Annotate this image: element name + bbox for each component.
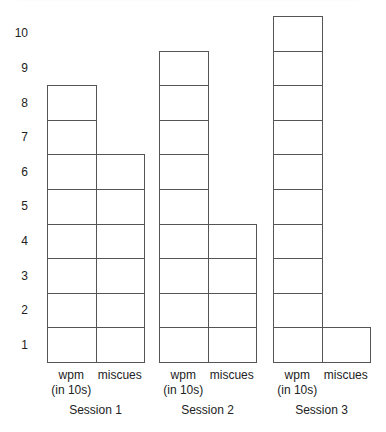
bar-block <box>208 327 258 363</box>
y-tick-label: 1 <box>0 338 28 352</box>
y-tick-label: 7 <box>0 130 28 144</box>
bar-block <box>96 258 146 294</box>
bar-block <box>96 154 146 190</box>
bar-block <box>159 327 209 363</box>
bar-block <box>47 293 97 329</box>
bar-block <box>273 189 323 225</box>
y-tick-label: 6 <box>0 165 28 179</box>
y-tick-label: 5 <box>0 199 28 213</box>
bar-block <box>96 293 146 329</box>
bar-block <box>47 154 97 190</box>
bar-block <box>96 224 146 260</box>
bar-block <box>47 327 97 363</box>
bar-block <box>159 51 209 87</box>
bar-block <box>159 224 209 260</box>
bar-block <box>47 258 97 294</box>
bar-block <box>159 293 209 329</box>
bar-block <box>96 327 146 363</box>
y-tick-label: 9 <box>0 61 28 75</box>
bar-block <box>159 258 209 294</box>
bar-block <box>208 258 258 294</box>
x-label-miscues: miscues <box>202 368 263 383</box>
bar-block <box>96 189 146 225</box>
bar-block <box>159 189 209 225</box>
bar-block <box>273 85 323 121</box>
x-label-miscues: miscues <box>316 368 377 383</box>
bar-block <box>208 293 258 329</box>
bar-block <box>47 189 97 225</box>
bar-block <box>273 16 323 52</box>
bar-block <box>273 224 323 260</box>
bar-block <box>47 224 97 260</box>
y-tick-label: 3 <box>0 269 28 283</box>
cropped-caption-remnant <box>18 0 358 2</box>
bar-block <box>273 293 323 329</box>
x-label-miscues: miscues <box>90 368 151 383</box>
bar-block <box>159 154 209 190</box>
bar-block <box>47 85 97 121</box>
y-tick-label: 8 <box>0 96 28 110</box>
bar-block <box>273 51 323 87</box>
y-tick-label: 4 <box>0 234 28 248</box>
bar-block <box>273 120 323 156</box>
bar-block <box>159 120 209 156</box>
bar-block <box>159 85 209 121</box>
bar-block <box>273 327 323 363</box>
bar-chart: 12345678910 wpm (in 10s)miscuesSession 1… <box>0 0 386 432</box>
session-label: Session 1 <box>47 403 144 417</box>
bar-block <box>47 120 97 156</box>
session-label: Session 3 <box>273 403 370 417</box>
y-tick-label: 10 <box>0 26 28 40</box>
bar-block <box>322 327 372 363</box>
bar-block <box>273 154 323 190</box>
session-label: Session 2 <box>159 403 256 417</box>
bar-block <box>208 224 258 260</box>
y-tick-label: 2 <box>0 303 28 317</box>
bar-block <box>273 258 323 294</box>
